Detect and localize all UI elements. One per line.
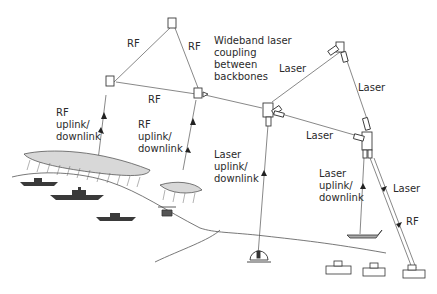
- label-laser-top-right: Laser: [358, 82, 385, 94]
- label-laser-top-left: Laser: [279, 63, 306, 75]
- label-rf-right-side: RF: [406, 216, 419, 228]
- laser-node-center: [263, 103, 273, 117]
- ground-station: [247, 251, 271, 262]
- label-laser-uplink-center: Laser uplink/ downlink: [214, 149, 259, 185]
- aircraft: [347, 230, 382, 238]
- ships: [20, 178, 136, 221]
- rf-node-top: [168, 18, 176, 28]
- network-diagram: RF RF RF RF uplink/ downlink RF uplink/ …: [0, 0, 437, 294]
- rf-link-bottom: [116, 82, 196, 94]
- label-rf-top-left: RF: [127, 38, 140, 50]
- rf-link-top-left: [114, 26, 172, 82]
- rf-uplink-mid-line: [183, 100, 196, 170]
- label-rf-top-right: RF: [188, 41, 201, 53]
- label-rf-uplink-mid: RF uplink/ downlink: [138, 119, 183, 155]
- cloud-small: [160, 182, 202, 193]
- label-rf-bottom: RF: [148, 94, 161, 106]
- rf-node-left: [106, 76, 114, 86]
- label-rf-uplink-left: RF uplink/ downlink: [56, 107, 101, 143]
- rf-link-top-right: [175, 28, 200, 93]
- label-wideband-coupling: Wideband laser coupling between backbone…: [214, 35, 292, 83]
- label-laser-bottom: Laser: [306, 130, 333, 142]
- label-laser-uplink-right: Laser uplink/ downlink: [319, 168, 364, 204]
- helicopter: [158, 207, 176, 216]
- label-laser-right-side: Laser: [393, 183, 420, 195]
- coupling-link: [205, 95, 262, 108]
- rf-node-mid: [194, 88, 202, 98]
- rf-right-line: [374, 158, 416, 268]
- rf-node-mid-emitter: [203, 92, 208, 97]
- cloud-bank: [24, 151, 202, 193]
